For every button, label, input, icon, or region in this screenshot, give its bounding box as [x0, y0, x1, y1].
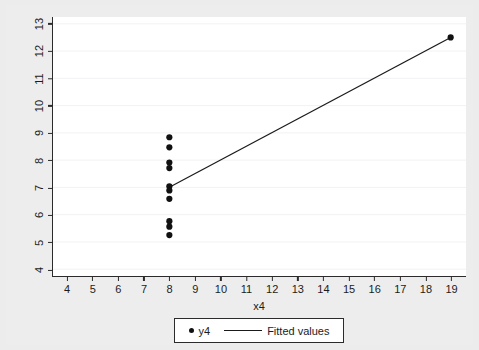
- line-segment-icon: [224, 330, 262, 331]
- x-axis-tick-label: 9: [192, 283, 198, 295]
- y-axis-tick-mark: [48, 187, 53, 188]
- y-axis-tick-label: 13: [33, 18, 45, 30]
- x-axis-tick: 15: [343, 276, 355, 295]
- x-axis-tick: 18: [420, 276, 432, 295]
- y-axis-tick-label: 9: [33, 130, 45, 136]
- x-axis-tick-mark: [195, 276, 196, 281]
- fitted-values-line: [169, 37, 450, 187]
- x-axis-tick: 9: [192, 276, 198, 295]
- y-axis-tick-mark: [48, 242, 53, 243]
- y-axis-tick: 11: [33, 73, 53, 84]
- y-axis-tick-label: 5: [33, 240, 45, 246]
- y-axis-tick-label: 12: [33, 45, 45, 57]
- x-axis-tick-mark: [246, 276, 247, 281]
- x-axis-tick-mark: [425, 276, 426, 281]
- x-axis-tick-mark: [67, 276, 68, 281]
- y-axis-tick-label: 6: [33, 212, 45, 218]
- data-point: [166, 224, 172, 230]
- y-axis-tick: 8: [33, 158, 53, 164]
- data-point: [166, 232, 172, 238]
- y-axis-tick-mark: [48, 23, 53, 24]
- x-axis-tick-mark: [374, 276, 375, 281]
- legend-entry-y4: y4: [189, 325, 211, 337]
- x-axis-tick-mark: [143, 276, 144, 281]
- x-axis-tick-mark: [118, 276, 119, 281]
- y-axis-tick-mark: [48, 51, 53, 52]
- x-axis-tick-label: 7: [141, 283, 147, 295]
- x-axis-tick-mark: [297, 276, 298, 281]
- data-point: [166, 218, 172, 224]
- x-axis-tick: 8: [167, 276, 173, 295]
- x-axis-tick-label: 17: [394, 283, 406, 295]
- y-axis-tick-mark: [48, 78, 53, 79]
- chart-figure: 45678910111213 4567891011121314151617181…: [0, 0, 479, 350]
- y-axis-tick: 7: [33, 185, 53, 191]
- x-axis-tick: 12: [266, 276, 278, 295]
- data-point: [166, 134, 172, 140]
- data-point: [166, 165, 172, 171]
- x-axis-tick-label: 13: [292, 283, 304, 295]
- plot-region: 45678910111213 4567891011121314151617181…: [52, 17, 466, 277]
- legend-label-y4: y4: [199, 325, 211, 337]
- x-axis-tick: 19: [445, 276, 457, 295]
- y-axis-tick-mark: [48, 160, 53, 161]
- x-axis-tick: 11: [241, 276, 252, 295]
- x-axis-tick-label: 4: [64, 283, 70, 295]
- x-axis-tick-label: 16: [369, 283, 381, 295]
- y-axis-tick-mark: [48, 105, 53, 106]
- y-axis-tick-label: 11: [33, 73, 45, 84]
- y-axis-tick-mark: [48, 270, 53, 271]
- x-axis-tick: 6: [115, 276, 121, 295]
- y-axis-tick: 6: [33, 212, 53, 218]
- data-point: [448, 34, 454, 40]
- x-axis-tick: 4: [64, 276, 70, 295]
- y-axis-tick: 9: [33, 130, 53, 136]
- y-axis-tick-mark: [48, 133, 53, 134]
- y-axis-tick-label: 10: [33, 100, 45, 112]
- y-axis-tick-label: 7: [33, 185, 45, 191]
- x-axis-tick: 13: [292, 276, 304, 295]
- x-axis-title: x4: [52, 300, 466, 312]
- x-axis-tick: 14: [317, 276, 329, 295]
- y-axis-tick: 12: [33, 45, 53, 57]
- x-axis-tick-label: 12: [266, 283, 278, 295]
- x-axis-tick: 16: [369, 276, 381, 295]
- x-axis-tick-mark: [220, 276, 221, 281]
- x-axis-tick-mark: [272, 276, 273, 281]
- x-axis-tick-label: 8: [167, 283, 173, 295]
- data-point: [166, 196, 172, 202]
- y-axis-tick: 13: [33, 18, 53, 30]
- legend-label-fitted-values: Fitted values: [267, 325, 329, 337]
- x-axis-tick-label: 14: [317, 283, 329, 295]
- x-axis-tick: 17: [394, 276, 406, 295]
- x-axis-tick-label: 18: [420, 283, 432, 295]
- x-axis-tick-mark: [92, 276, 93, 281]
- y-axis-tick-mark: [48, 215, 53, 216]
- x-axis-tick-label: 5: [90, 283, 96, 295]
- data-point: [166, 187, 172, 193]
- data-point: [166, 159, 172, 165]
- x-axis-tick-mark: [323, 276, 324, 281]
- y-axis-tick: 5: [33, 240, 53, 246]
- y-axis-tick-label: 8: [33, 158, 45, 164]
- y-axis-tick: 10: [33, 100, 53, 112]
- data-point: [166, 144, 172, 150]
- x-axis-tick-label: 19: [445, 283, 457, 295]
- scatter-dot-icon: [189, 328, 194, 333]
- x-axis-tick: 7: [141, 276, 147, 295]
- x-axis-tick-mark: [400, 276, 401, 281]
- scatter-markers: [166, 34, 453, 238]
- legend-entry-fitted-values: Fitted values: [224, 325, 329, 337]
- x-axis-tick: 5: [90, 276, 96, 295]
- chart-legend: y4 Fitted values: [174, 318, 344, 343]
- x-axis-tick-mark: [451, 276, 452, 281]
- x-axis-tick: 10: [215, 276, 227, 295]
- x-axis-tick-label: 6: [115, 283, 121, 295]
- data-layer: [53, 17, 466, 276]
- x-axis-tick-label: 10: [215, 283, 227, 295]
- x-axis-tick-mark: [169, 276, 170, 281]
- x-axis-tick-label: 15: [343, 283, 355, 295]
- x-axis-tick-label: 11: [241, 283, 252, 295]
- y-axis-tick: 4: [33, 267, 53, 273]
- y-axis-tick-label: 4: [33, 267, 45, 273]
